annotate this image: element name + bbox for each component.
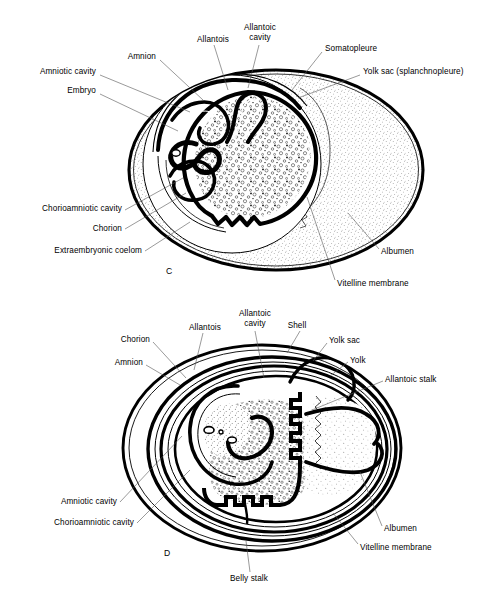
label-amnion-c: Amnion: [76, 52, 156, 62]
label-albumen-d: Albumen: [384, 524, 417, 534]
panel-letter-c: C: [166, 266, 172, 276]
embryo-head-c: [172, 150, 180, 156]
label-embryo-c: Embryo: [6, 86, 96, 96]
label-somatopleure-c: Somatopleure: [325, 44, 377, 54]
label-amnion-d: Amnion: [63, 358, 143, 368]
label-allantoic-stalk-d: Allantoic stalk: [385, 375, 437, 385]
label-chorion-c: Chorion: [42, 224, 122, 234]
label-amniotic-cavity-c: Amniotic cavity: [6, 67, 96, 77]
label-vitelline-membrane-d: Vitelline membrane: [360, 543, 432, 553]
label-allantoic-cavity-c: Allantoic cavity: [228, 23, 292, 42]
label-shell-d: Shell: [275, 321, 319, 331]
label-chorioamniotic-cavity-c: Chorioamniotic cavity: [8, 204, 122, 214]
label-yolk-sac-splanchnopleure-c: Yolk sac (splanchnopleure): [363, 67, 464, 77]
embryo-eye-d: [204, 427, 214, 434]
label-vitelline-membrane-c: Vitelline membrane: [337, 279, 409, 289]
label-yolk-d: Yolk: [350, 356, 366, 366]
label-amniotic-cavity-d: Amniotic cavity: [27, 497, 117, 507]
label-yolk-sac-d: Yolk sac: [329, 336, 360, 346]
embryo-dot-d: [219, 430, 223, 434]
label-extraembryonic-coelom-c: Extraembryonic coelom: [8, 246, 142, 256]
panel-c: [100, 45, 423, 280]
embryo-vesicle-d: [228, 437, 237, 443]
panel-letter-d: D: [164, 548, 170, 558]
label-chorioamniotic-cavity-d: Chorioamniotic cavity: [20, 518, 134, 528]
label-chorion-d: Chorion: [70, 335, 150, 345]
panel-d: [120, 331, 401, 572]
label-albumen-c: Albumen: [381, 247, 414, 257]
label-belly-stalk-d: Belly stalk: [219, 574, 279, 584]
